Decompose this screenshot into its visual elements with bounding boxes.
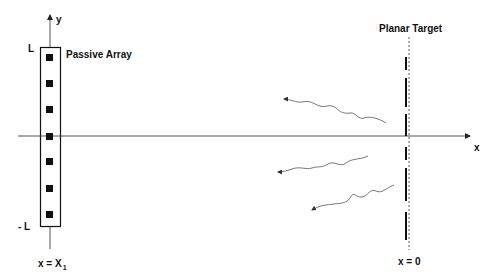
array-element [46,106,53,113]
wave-arrow [312,185,394,210]
planar-target-label: Planar Target [379,24,442,34]
passive-array [41,48,61,227]
x-axis-label: x [474,143,480,153]
passive-array-label: Passive Array [66,50,132,60]
array-position-label: x = X1 [38,259,67,269]
array-element [46,211,53,218]
array-element [46,158,53,165]
bottom-limit-label: - L [18,222,30,232]
top-limit-label: L [28,44,34,54]
wave-arrow [284,99,386,123]
array-element [46,133,53,140]
target-position-label: x = 0 [398,257,421,267]
array-element [46,80,53,87]
scattered-waves [278,99,394,210]
array-position-subscript: 1 [63,264,67,271]
wave-arrow [278,156,368,172]
y-axis-label: y [56,15,62,25]
array-element [46,185,53,192]
array-position-text: x = X [38,258,62,269]
planar-target [406,37,409,250]
diagram-canvas [0,0,494,279]
array-element [46,54,53,61]
